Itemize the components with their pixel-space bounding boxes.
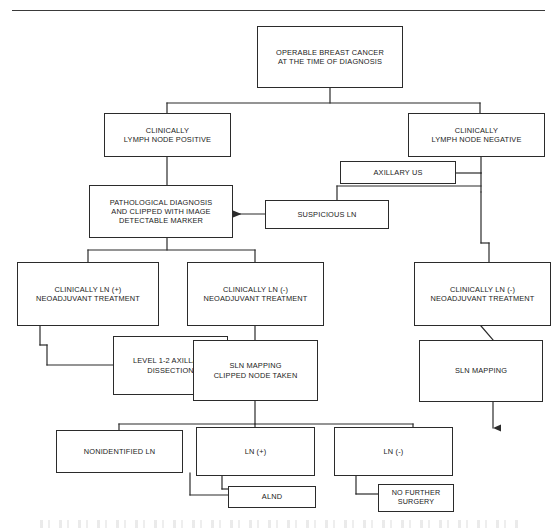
node-sln-mapping[interactable]: SLN MAPPING [419,340,543,402]
node-no-further-surgery[interactable]: NO FURTHER SURGERY [378,484,454,512]
node-text-line: DETECTABLE MARKER [93,216,229,225]
flowchart-page: OPERABLE BREAST CANCER AT THE TIME OF DI… [0,0,557,532]
node-clinically-lymph-node-negative[interactable]: CLINICALLY LYMPH NODE NEGATIVE [408,113,545,157]
node-text-line: CLINICALLY LN (+) [21,285,155,294]
node-text-line: SUSPICIOUS LN [269,210,385,219]
caption-artifact-strip [40,520,520,528]
node-sln-mapping-clipped-node-taken[interactable]: SLN MAPPING CLIPPED NODE TAKEN [193,340,318,401]
edge-neoright-to-sln-diagonal [481,326,493,340]
node-text-line: NEOADJUVANT TREATMENT [21,294,155,303]
node-nonidentified-ln[interactable]: NONIDENTIFIED LN [56,430,183,473]
node-clinically-ln-positive-neoadjuvant[interactable]: CLINICALLY LN (+) NEOADJUVANT TREATMENT [17,262,159,326]
node-text-line: SURGERY [382,498,450,507]
node-text-line: CLINICALLY LN (-) [418,285,547,294]
node-operable-breast-cancer[interactable]: OPERABLE BREAST CANCER AT THE TIME OF DI… [257,26,403,88]
node-pathological-diagnosis[interactable]: PATHOLOGICAL DIAGNOSIS AND CLIPPED WITH … [89,185,233,238]
node-clinically-ln-negative-neoadjuvant-right[interactable]: CLINICALLY LN (-) NEOADJUVANT TREATMENT [414,262,551,326]
node-text-line: NEOADJUVANT TREATMENT [418,294,547,303]
node-alnd[interactable]: ALND [228,486,316,508]
node-text-line: OPERABLE BREAST CANCER [261,48,399,57]
node-suspicious-ln[interactable]: SUSPICIOUS LN [265,200,389,229]
node-text-line: PATHOLOGICAL DIAGNOSIS [93,198,229,207]
node-text-line: ALND [232,492,312,501]
node-text-line: SLN MAPPING [197,361,314,370]
node-axillary-us[interactable]: AXILLARY US [340,161,456,184]
node-clinically-lymph-node-positive[interactable]: CLINICALLY LYMPH NODE POSITIVE [104,113,231,157]
node-ln-positive-result[interactable]: LN (+) [196,427,315,476]
node-text-line: CLINICALLY [412,126,541,135]
node-text-line: LN (-) [338,447,449,456]
node-text-line: LYMPH NODE NEGATIVE [412,135,541,144]
node-text-line: CLINICALLY [108,126,227,135]
node-text-line: LN (+) [200,447,311,456]
node-clinically-ln-negative-neoadjuvant-mid[interactable]: CLINICALLY LN (-) NEOADJUVANT TREATMENT [187,262,324,326]
node-text-line: LYMPH NODE POSITIVE [108,135,227,144]
node-text-line: NONIDENTIFIED LN [60,447,179,456]
node-ln-negative-result[interactable]: LN (-) [334,427,453,476]
node-text-line: AND CLIPPED WITH IMAGE [93,207,229,216]
node-text-line: CLIPPED NODE TAKEN [197,371,314,380]
node-text-line: NEOADJUVANT TREATMENT [191,294,320,303]
node-text-line: AT THE TIME OF DIAGNOSIS [261,57,399,66]
node-text-line: AXILLARY US [344,168,452,177]
node-text-line: SLN MAPPING [423,366,539,375]
node-text-line: CLINICALLY LN (-) [191,285,320,294]
